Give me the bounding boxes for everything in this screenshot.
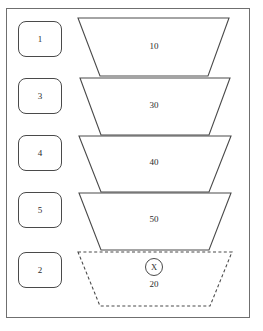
- x-marker-circle-icon: X: [145, 258, 163, 276]
- stage-label-box-5[interactable]: 2: [18, 252, 62, 288]
- diagram-canvas: 1 3 4 5 2 10 30 40 50 X 20: [0, 0, 263, 331]
- stage-label-box-2[interactable]: 3: [18, 78, 62, 114]
- stage-label-text-1: 1: [38, 35, 43, 44]
- stage-value-4: 50: [124, 215, 184, 224]
- stage-label-text-2: 3: [38, 92, 43, 101]
- stage-value-5: 20: [124, 280, 184, 289]
- stage-label-text-4: 5: [38, 206, 43, 215]
- x-marker-text: X: [151, 263, 157, 272]
- stage-label-box-4[interactable]: 5: [18, 192, 62, 228]
- stage-value-1: 10: [124, 42, 184, 51]
- stage-value-2: 30: [124, 101, 184, 110]
- stage-label-text-5: 2: [38, 266, 43, 275]
- stage-value-3: 40: [124, 158, 184, 167]
- x-marker[interactable]: X: [145, 258, 163, 276]
- stage-label-box-1[interactable]: 1: [18, 21, 62, 57]
- stage-label-box-3[interactable]: 4: [18, 135, 62, 171]
- stage-label-text-3: 4: [38, 149, 43, 158]
